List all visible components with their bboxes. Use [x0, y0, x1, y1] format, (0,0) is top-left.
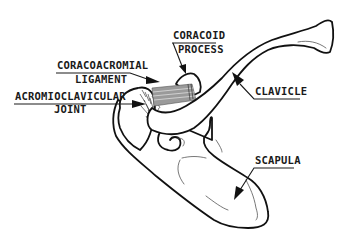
label-coracoid-line2: PROCESS	[178, 43, 224, 55]
label-clavicle-text: CLAVICLE	[255, 85, 307, 97]
label-scapula-text: SCAPULA	[255, 154, 301, 166]
label-clavicle: CLAVICLE	[232, 72, 307, 99]
coracoid-arrow-icon	[179, 64, 186, 74]
label-joint-line1: ACROMIOCLAVICULAR	[15, 90, 126, 102]
ligament-arrow-icon	[146, 76, 160, 84]
label-ligament-line1: CORACOACROMIAL	[57, 59, 148, 71]
coracoacromial-ligament-shape	[152, 84, 196, 106]
shoulder-anatomy-diagram: CORACOID PROCESS CORACOACROMIAL LIGAMENT…	[0, 0, 345, 239]
label-joint-line2: JOINT	[54, 103, 87, 115]
label-ligament-line2: LIGAMENT	[75, 73, 127, 85]
label-coracoid-process: CORACOID PROCESS	[172, 29, 225, 74]
label-coracoid-line1: CORACOID	[173, 29, 225, 41]
label-coracoacromial-ligament: CORACOACROMIAL LIGAMENT	[56, 59, 160, 85]
